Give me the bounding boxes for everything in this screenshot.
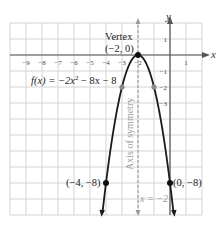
y-tick-label: −3 — [160, 100, 168, 108]
axis-of-symmetry-line — [136, 18, 141, 216]
data-point-marker — [151, 84, 156, 89]
vertex-coords: (−2, 0) — [105, 43, 134, 55]
plot-area: −9−8−7−6−5−4−3−211−1−2−3 x y Vertex (−2,… — [0, 0, 224, 226]
y-tick-label: −1 — [160, 68, 168, 76]
y-tick-label: −2 — [160, 84, 168, 92]
function-label: f(x) = −2x2 − 8x − 8 — [31, 74, 117, 87]
x-axis-label: x — [210, 48, 216, 60]
x-tick-label: −7 — [54, 59, 62, 67]
vertex-title: Vertex — [105, 31, 133, 42]
x-tick-label: −9 — [22, 59, 30, 67]
parabola-graph: −9−8−7−6−5−4−3−211−1−2−3 x y Vertex (−2,… — [0, 0, 224, 226]
x-tick-label: −6 — [70, 59, 78, 67]
y-axis-label: y — [165, 10, 171, 22]
x-tick-label: 1 — [184, 59, 188, 67]
curve-arrow-right-icon — [171, 210, 177, 217]
x-tick-label: −5 — [86, 59, 94, 67]
data-point-marker — [119, 84, 124, 89]
y-tick-label: 1 — [164, 36, 168, 44]
x-tick-label: −3 — [118, 59, 126, 67]
data-point-marker — [135, 52, 141, 58]
curve-arrow-left-icon — [99, 210, 105, 217]
x-tick-label: −2 — [134, 59, 142, 67]
x-tick-label: −4 — [102, 59, 110, 67]
x-tick-label: −8 — [38, 59, 46, 67]
symmetry-arrow-up-icon — [136, 18, 141, 24]
right-point-label: (0, −8) — [173, 177, 202, 189]
axis-of-symmetry-equation: x = −2 — [139, 193, 168, 204]
axis-of-symmetry-label: Axis of symmetry — [124, 98, 135, 170]
data-point-marker — [103, 180, 109, 186]
x-axis-arrow-icon — [202, 52, 210, 58]
left-point-label: (−4, −8) — [66, 177, 101, 189]
